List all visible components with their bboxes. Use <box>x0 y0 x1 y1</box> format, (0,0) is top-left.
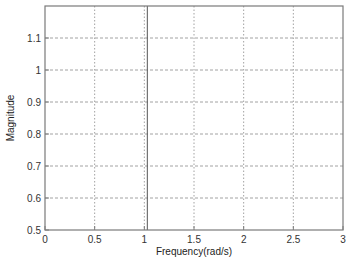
y-tick-label: 1.1 <box>27 33 41 44</box>
magnitude-chart: 00.511.522.53 0.50.60.70.80.911.1 Freque… <box>0 0 352 266</box>
grid-lines <box>45 6 343 230</box>
y-tick-label: 0.8 <box>27 129 41 140</box>
x-axis-ticks: 00.511.522.53 <box>42 226 346 245</box>
y-tick-label: 0.7 <box>27 161 41 172</box>
x-tick-label: 1 <box>142 234 148 245</box>
x-tick-label: 3 <box>340 234 346 245</box>
y-tick-label: 0.5 <box>27 225 41 236</box>
y-axis-ticks: 0.50.60.70.80.911.1 <box>27 33 49 236</box>
y-tick-label: 0.6 <box>27 193 41 204</box>
x-tick-label: 2.5 <box>286 234 300 245</box>
x-tick-label: 2 <box>241 234 247 245</box>
y-tick-label: 1 <box>35 65 41 76</box>
y-axis-label: Magnitude <box>5 94 16 141</box>
y-tick-label: 0.9 <box>27 97 41 108</box>
x-tick-label: 0 <box>42 234 48 245</box>
x-tick-label: 1.5 <box>187 234 201 245</box>
x-axis-label: Frequency(rad/s) <box>156 246 232 257</box>
x-tick-label: 0.5 <box>88 234 102 245</box>
